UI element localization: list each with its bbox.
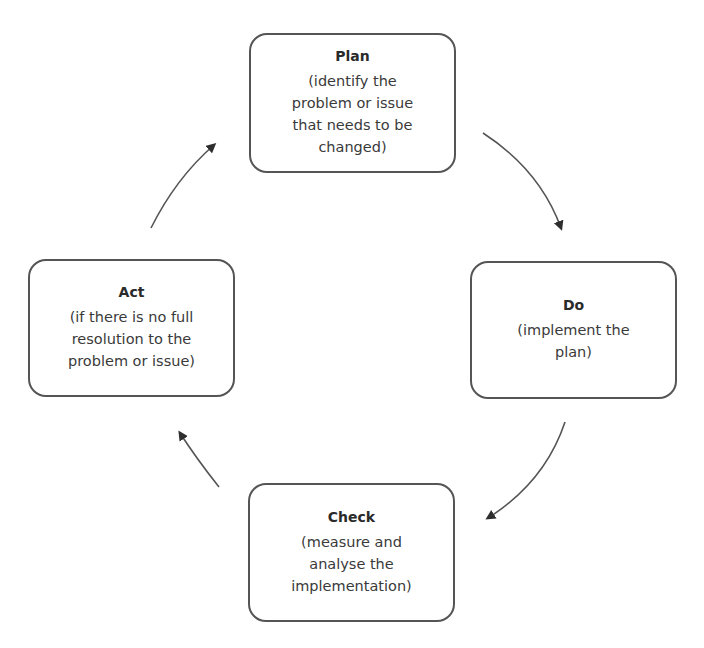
plan-title: Plan [335,48,369,64]
arrow-plan-to-do [483,133,561,228]
arrow-check-to-act [180,433,219,487]
check-box: Check (measure and analyse the implement… [248,483,455,622]
plan-description: (identify the problem or issue that need… [292,70,413,158]
act-description: (if there is no full resolution to the p… [68,306,195,372]
act-title: Act [119,284,145,300]
do-description: (implement the plan) [517,319,629,363]
do-box: Do (implement the plan) [470,261,677,399]
do-title: Do [563,297,584,313]
check-description: (measure and analyse the implementation) [291,531,412,597]
act-box: Act (if there is no full resolution to t… [28,259,235,397]
arrow-act-to-plan [151,145,214,228]
plan-box: Plan (identify the problem or issue that… [249,33,456,173]
arrow-do-to-check [488,422,565,518]
check-title: Check [328,509,375,525]
pdca-cycle-diagram: Plan (identify the problem or issue that… [0,0,704,648]
